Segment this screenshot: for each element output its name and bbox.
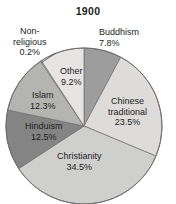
slice-label-non-religious-name2: religious (13, 37, 47, 48)
slice-label-hinduism: Hinduism 12.5% (25, 121, 63, 142)
slice-label-buddhism: Buddhism 7.8% (99, 27, 139, 48)
slice-label-other: Other 9.2% (60, 66, 83, 87)
slice-label-non-religious-value: 0.2% (13, 47, 47, 58)
slice-label-non-religious: Non- religious 0.2% (13, 26, 47, 58)
slice-label-islam-name: Islam (30, 90, 56, 101)
slice-label-non-religious-name1: Non- (13, 26, 47, 37)
slice-label-islam: Islam 12.3% (30, 90, 56, 111)
slice-label-chinese-traditional-name2: traditional (108, 107, 147, 118)
slice-label-other-name: Other (60, 66, 83, 77)
slice-label-buddhism-name: Buddhism (99, 27, 139, 38)
slice-label-other-value: 9.2% (60, 77, 83, 88)
slice-label-hinduism-value: 12.5% (25, 132, 63, 143)
slice-label-christianity-value: 34.5% (57, 162, 102, 173)
slice-label-islam-value: 12.3% (30, 101, 56, 112)
slice-label-christianity: Christianity 34.5% (57, 151, 102, 172)
slice-label-christianity-name: Christianity (57, 151, 102, 162)
slice-label-chinese-traditional: Chinese traditional 23.5% (108, 96, 147, 128)
slice-label-buddhism-value: 7.8% (99, 38, 139, 49)
slice-label-hinduism-name: Hinduism (25, 121, 63, 132)
slice-label-chinese-traditional-value: 23.5% (108, 117, 147, 128)
slice-label-chinese-traditional-name1: Chinese (108, 96, 147, 107)
pie-chart: 1900 Buddhism 7.8% Chinese traditional 2… (0, 0, 176, 204)
